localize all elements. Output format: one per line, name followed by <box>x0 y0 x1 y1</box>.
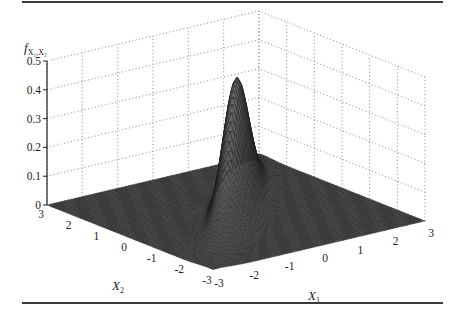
density-surface <box>47 77 425 269</box>
x2-tick-label: -1 <box>147 252 157 264</box>
top-rule <box>22 1 443 3</box>
x1-tick-label: -2 <box>250 269 260 281</box>
z-axis-label: fX₁,X₂ <box>24 40 47 57</box>
z-tick-label: 0.4 <box>27 84 42 96</box>
x2-axis-label: X2 <box>111 278 124 295</box>
z-tick-label: 0.2 <box>27 141 42 153</box>
x1-tick-label: -3 <box>214 277 224 289</box>
x2-tick-label: 0 <box>121 241 127 253</box>
x2-tick-label: 1 <box>93 230 99 242</box>
x1-tick-label: 2 <box>393 235 399 247</box>
z-tick-label: 0.3 <box>27 113 42 125</box>
bottom-rule <box>22 302 443 304</box>
x1-tick-label: 0 <box>322 252 328 264</box>
x1-tick-label: -1 <box>285 260 295 272</box>
z-tick-label: 0.1 <box>27 170 42 182</box>
x2-tick-label: 3 <box>38 208 44 220</box>
x2-tick-label: -2 <box>175 263 185 275</box>
x2-tick-label: 2 <box>66 219 72 231</box>
x1-tick-label: 1 <box>357 244 363 256</box>
x1-tick-label: 3 <box>428 227 434 239</box>
surface-plot: 00.10.20.30.40.5-3-2-10123-3-2-10123 fX₁… <box>0 0 465 313</box>
x2-tick-label: -3 <box>202 274 212 286</box>
grid-line-z <box>47 11 425 77</box>
chart-figure: 00.10.20.30.40.5-3-2-10123-3-2-10123 fX₁… <box>0 0 465 313</box>
